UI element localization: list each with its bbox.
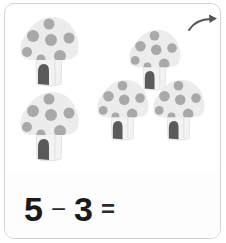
operand-a: 5	[24, 192, 43, 226]
minus-operator: −	[51, 196, 66, 222]
mushroom-icon	[151, 77, 206, 142]
mushroom-icon	[95, 77, 150, 142]
curved-arrow-right-icon[interactable]	[184, 10, 220, 34]
mushroom-icon	[18, 89, 80, 163]
mushroom-icon	[18, 14, 80, 88]
equation: 5 − 3 =	[24, 192, 155, 226]
operand-b: 3	[74, 192, 93, 226]
equals-sign: =	[101, 197, 115, 221]
